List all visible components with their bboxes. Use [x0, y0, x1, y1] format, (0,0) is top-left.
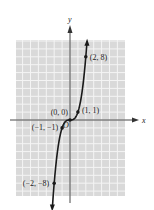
point-label: (−2, −8): [23, 179, 50, 188]
cubic-function-graph: (−2, −8)(−1, −1)(0, 0)(1, 1)(2, 8) x y O: [0, 0, 154, 210]
point-label: (0, 0): [51, 108, 69, 117]
origin-label: O: [63, 121, 69, 130]
point-label: (2, 8): [90, 53, 108, 62]
point-label: (1, 1): [82, 106, 100, 115]
data-point: [52, 181, 56, 185]
y-axis-label: y: [67, 15, 72, 24]
data-point: [76, 110, 80, 114]
point-label: (−1, −1): [32, 123, 59, 132]
x-axis-label: x: [141, 116, 146, 125]
data-point: [84, 55, 88, 59]
grid: [16, 40, 125, 196]
